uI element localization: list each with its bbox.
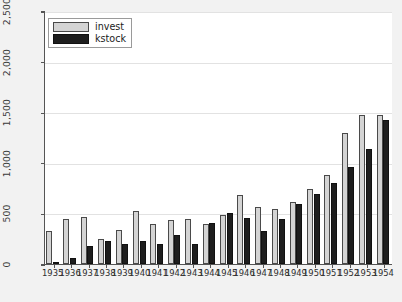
bar-group (97, 12, 114, 264)
bar-group (376, 12, 393, 264)
bar-group (149, 12, 166, 264)
bar-group (202, 12, 219, 264)
bar-invest (185, 219, 191, 264)
bar-kstock (383, 120, 389, 264)
bar-invest (377, 115, 383, 264)
bar-kstock (174, 235, 180, 264)
bar-kstock (157, 244, 163, 264)
bar-group (289, 12, 306, 264)
bar-invest (46, 231, 52, 264)
bar-invest (272, 209, 278, 264)
bar-group (271, 12, 288, 264)
bar-invest (98, 239, 104, 264)
bar-group (254, 12, 271, 264)
legend-swatch-kstock (53, 34, 89, 44)
bar-kstock (87, 246, 93, 264)
bar-kstock (192, 244, 198, 264)
bar-group (358, 12, 375, 264)
bar-kstock (209, 223, 215, 264)
bar-group (62, 12, 79, 264)
bar-invest (203, 224, 209, 264)
bar-invest (237, 195, 243, 264)
bar-kstock (314, 194, 320, 264)
bar-group (132, 12, 149, 264)
chart-legend: invest kstock (48, 18, 132, 48)
bar-kstock (279, 219, 285, 264)
y-tick-label: 0 (1, 235, 12, 295)
bar-invest (81, 217, 87, 264)
bar-invest (307, 189, 313, 264)
bar-group (236, 12, 253, 264)
bar-invest (324, 175, 330, 264)
bar-invest (290, 202, 296, 264)
bar-invest (150, 224, 156, 264)
chart-figure: 05001,0001,5002,0002,500 193519361937193… (0, 0, 402, 302)
bar-invest (133, 211, 139, 264)
bar-group (341, 12, 358, 264)
bar-group (306, 12, 323, 264)
bar-group (323, 12, 340, 264)
legend-swatch-invest (53, 22, 89, 32)
bar-invest (63, 219, 69, 264)
bar-kstock (227, 213, 233, 264)
y-tick-label: 2,500 (1, 0, 12, 42)
bar-group (45, 12, 62, 264)
bar-group (80, 12, 97, 264)
bar-invest (168, 220, 174, 264)
y-tick-mark (41, 264, 45, 265)
bar-kstock (261, 231, 267, 264)
bar-kstock (244, 218, 250, 264)
legend-label-kstock: kstock (95, 34, 126, 44)
bar-invest (220, 215, 226, 264)
bar-invest (255, 207, 261, 264)
bar-kstock (122, 244, 128, 264)
bar-group (219, 12, 236, 264)
legend-item-invest: invest (53, 22, 126, 32)
bar-kstock (366, 149, 372, 264)
bar-kstock (140, 241, 146, 264)
plot-area (44, 12, 392, 265)
legend-item-kstock: kstock (53, 34, 126, 44)
bar-kstock (105, 241, 111, 264)
bar-invest (342, 133, 348, 264)
bar-kstock (296, 204, 302, 264)
bar-kstock (348, 167, 354, 264)
bar-kstock (331, 183, 337, 264)
bar-group (184, 12, 201, 264)
bar-group (115, 12, 132, 264)
bar-group (167, 12, 184, 264)
legend-label-invest: invest (95, 22, 124, 32)
x-tick-label: 1954 (370, 268, 396, 278)
bar-invest (359, 115, 365, 264)
bar-invest (116, 230, 122, 264)
